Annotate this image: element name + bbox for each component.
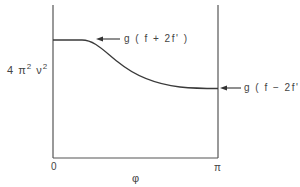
annotation-upper: g ( f + 2f' ) [124, 33, 188, 44]
arrow-lower-icon [220, 86, 241, 91]
diagram-canvas [0, 0, 300, 187]
y-label-part2: ν [32, 64, 43, 76]
y-label-part1: 4 π [7, 64, 27, 76]
x-axis-label: φ [132, 172, 141, 184]
curve [53, 40, 218, 89]
annotation-lower: g ( f − 2f' ) [244, 82, 300, 93]
arrow-upper-icon [96, 37, 120, 42]
y-axis-label: 4 π2 ν2 [7, 62, 48, 76]
x-tick-zero: 0 [51, 161, 58, 172]
x-tick-pi: π [214, 162, 222, 173]
y-label-exp2: 2 [43, 62, 48, 71]
